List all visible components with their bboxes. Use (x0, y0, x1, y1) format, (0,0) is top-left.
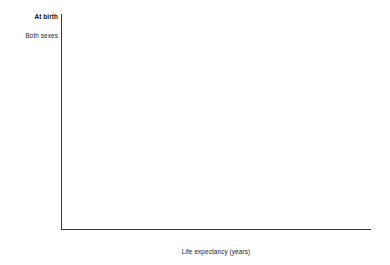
plot-area (61, 14, 370, 228)
group-heading: At birth (2, 13, 58, 21)
category-label-column: At birthBoth sexes (0, 0, 58, 265)
life-expectancy-bar-chart: At birthBoth sexes Life expectancy (year… (0, 0, 390, 265)
x-axis-title: Life expectancy (years) (61, 248, 371, 256)
category-label: Both sexes (2, 32, 58, 40)
x-axis-line (61, 229, 371, 230)
